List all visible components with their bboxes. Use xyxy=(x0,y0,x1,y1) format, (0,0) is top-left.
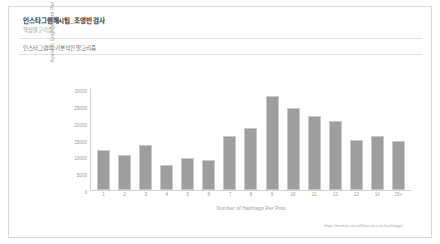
bar-slot xyxy=(240,89,261,190)
bar-slot xyxy=(135,89,156,190)
page-root: 인스타그램해시팁_조영빈 검사 핵심알고리즘 인스타그램의 기본적인 알고리즘 … xyxy=(0,0,440,244)
bar xyxy=(329,121,342,190)
x-axis-tick-label: 13 xyxy=(346,192,367,198)
caption-row: 인스타그램의 기본적인 알고리즘 xyxy=(23,42,417,54)
y-axis-tick-label: 0 xyxy=(61,190,87,195)
slide-card: 인스타그램해시팁_조영빈 검사 핵심알고리즘 인스타그램의 기본적인 알고리즘 … xyxy=(8,6,432,238)
bar-slot xyxy=(219,89,240,190)
x-axis-tick-label: 5 xyxy=(177,192,198,198)
bar-series xyxy=(91,89,411,190)
plot-area xyxy=(91,89,411,190)
bar xyxy=(181,158,194,190)
x-axis-title: Number of Hashtags Per Post xyxy=(91,205,411,211)
x-axis-tick-label: 6 xyxy=(198,192,219,198)
x-axis-tick-label: 10 xyxy=(283,192,304,198)
bar-slot xyxy=(283,89,304,190)
page-title: 인스타그램해시팁_조영빈 검사 xyxy=(23,16,417,25)
bar xyxy=(139,145,152,190)
x-axis-tick-label: 9 xyxy=(262,192,283,198)
bar-slot xyxy=(198,89,219,190)
y-axis-tick-labels: 050001000015000200002500030000 xyxy=(61,93,87,189)
bar-slot xyxy=(93,89,114,190)
caption-divider xyxy=(19,54,423,55)
x-axis-tick-label: 11 xyxy=(304,192,325,198)
caption-text: 인스타그램의 기본적인 알고리즘 xyxy=(23,42,417,54)
bar-slot xyxy=(367,89,388,190)
x-axis-tick-label: 12 xyxy=(325,192,346,198)
y-axis-tick-label: 5000 xyxy=(61,173,87,178)
x-axis-tick-labels: 123456789101112131415+ xyxy=(91,192,411,198)
bar xyxy=(308,116,321,190)
y-axis-tick-label: 20000 xyxy=(61,123,87,128)
y-axis-tick-label: 15000 xyxy=(61,140,87,145)
y-axis-tick-label: 25000 xyxy=(61,106,87,111)
bar xyxy=(202,160,215,190)
x-axis-tick-label: 15+ xyxy=(388,192,409,198)
bar xyxy=(287,108,300,190)
y-axis-tick-label: 10000 xyxy=(61,156,87,161)
bar xyxy=(97,150,110,190)
x-axis-tick-label: 8 xyxy=(240,192,261,198)
bar-slot xyxy=(346,89,367,190)
x-axis-tick-label: 14 xyxy=(367,192,388,198)
bar xyxy=(118,155,131,190)
bar xyxy=(371,136,384,190)
bar-slot xyxy=(388,89,409,190)
x-axis-tick-label: 4 xyxy=(156,192,177,198)
bar xyxy=(160,165,173,190)
bar xyxy=(350,140,363,191)
bar xyxy=(392,141,405,190)
bar xyxy=(223,136,236,190)
bar-slot xyxy=(177,89,198,190)
x-axis-tick-label: 2 xyxy=(114,192,135,198)
page-subtitle: 핵심알고리즘 xyxy=(23,26,417,34)
bar-chart: Average Engagement Per Post 050001000015… xyxy=(49,59,419,235)
header-divider xyxy=(19,38,423,39)
x-axis-line xyxy=(90,190,412,191)
x-axis-tick-label: 1 xyxy=(93,192,114,198)
bar xyxy=(266,96,279,190)
bar-slot xyxy=(156,89,177,190)
bar-slot xyxy=(114,89,135,190)
x-axis-tick-label: 3 xyxy=(135,192,156,198)
y-axis-title: Average Engagement Per Post xyxy=(47,0,57,81)
bar xyxy=(244,128,257,190)
bar-slot xyxy=(304,89,325,190)
source-url[interactable]: https://revive.social/how-to-use-hashtag… xyxy=(324,223,403,228)
x-axis-tick-label: 7 xyxy=(219,192,240,198)
document-header: 인스타그램해시팁_조영빈 검사 핵심알고리즘 xyxy=(9,7,431,41)
y-axis-tick-label: 30000 xyxy=(61,89,87,94)
bar-slot xyxy=(262,89,283,190)
bar-slot xyxy=(325,89,346,190)
